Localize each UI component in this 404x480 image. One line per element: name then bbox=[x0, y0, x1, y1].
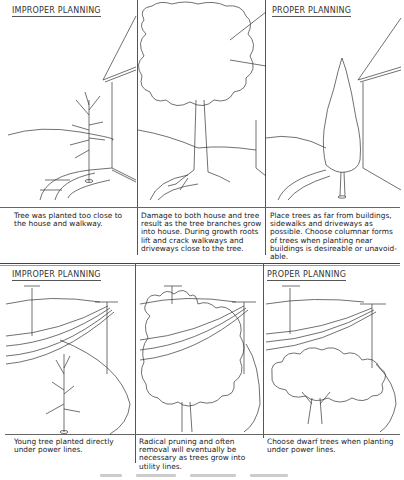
dwarf-tree-beside-power-lines-illustration bbox=[264, 264, 404, 434]
large-tree-in-power-lines-illustration bbox=[136, 264, 264, 434]
mature-tree-overgrowing-house-illustration bbox=[138, 0, 266, 207]
young-tree-under-power-lines-illustration bbox=[0, 264, 135, 434]
columnar-tree-near-house-illustration bbox=[266, 0, 404, 207]
panel-description: Damage to both house and tree result as … bbox=[141, 212, 263, 253]
divider-top-captions bbox=[0, 207, 400, 208]
panel-description: Place trees as far from buildings, sidew… bbox=[270, 212, 400, 261]
panel-description: Young tree planted directly under power … bbox=[14, 438, 132, 454]
figure-caption-cutoff bbox=[100, 474, 310, 480]
panel-description: Choose dwarf trees when planting under p… bbox=[267, 438, 401, 454]
panel-description: Tree was planted too close to the house … bbox=[14, 212, 132, 228]
panel-description: Radical pruning and often removal will e… bbox=[139, 438, 259, 471]
divider-bottom-captions bbox=[5, 434, 400, 435]
young-bare-tree-near-house-illustration bbox=[0, 0, 137, 207]
